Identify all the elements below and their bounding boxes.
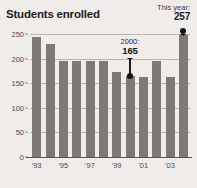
bar — [166, 77, 175, 157]
x-axis-tick-label: '97 — [85, 161, 95, 170]
students-enrolled-chart-card: Students enrolled This year: 257 0501001… — [0, 0, 197, 188]
y-axis-tick-label: 100 — [11, 103, 24, 112]
y-axis-tick-label: 200 — [11, 54, 24, 63]
bar-series — [30, 34, 190, 157]
x-axis-tick-label: '03 — [165, 161, 175, 170]
bar — [86, 61, 95, 157]
annotation-text: 2000:165 — [121, 38, 140, 56]
annotation-value-label: 165 — [121, 46, 140, 56]
x-axis-labels: '93'95'97'99'01'03 — [30, 160, 190, 174]
page-title: Students enrolled — [6, 8, 100, 20]
y-axis-tick — [25, 107, 28, 108]
bar — [72, 61, 81, 157]
bar — [99, 61, 108, 157]
bar — [139, 77, 148, 157]
y-axis-tick-label: 150 — [11, 79, 24, 88]
annotation-marker-dot — [127, 73, 133, 79]
bar — [59, 61, 68, 157]
this-year-callout-block: This year: 257 — [157, 4, 190, 22]
y-axis-tick — [25, 34, 28, 35]
x-axis-baseline — [26, 157, 192, 158]
y-axis-tick-label: 0 — [20, 153, 24, 162]
this-year-value: 257 — [157, 12, 190, 23]
y-axis-tick-label: 50 — [16, 128, 24, 137]
bar — [152, 61, 161, 157]
plot-area: 2000:165 — [30, 34, 190, 157]
chart-header: Students enrolled This year: 257 — [0, 0, 197, 30]
bar — [32, 37, 41, 157]
y-axis-tick — [25, 132, 28, 133]
x-axis-tick-label: '95 — [58, 161, 68, 170]
annotation-cap — [181, 34, 186, 35]
y-axis-tick-label: 250 — [11, 30, 24, 39]
y-axis-labels: 050100150200250 — [0, 34, 28, 157]
bar — [179, 35, 188, 157]
y-axis-tick — [25, 83, 28, 84]
x-axis-tick-label: '01 — [138, 161, 148, 170]
bar — [112, 72, 121, 157]
x-axis-tick-label: '99 — [112, 161, 122, 170]
x-axis-tick-label: '93 — [32, 161, 42, 170]
annotation-marker-dot — [180, 28, 186, 34]
bar — [126, 76, 135, 157]
y-axis-tick — [25, 58, 28, 59]
bar — [46, 44, 55, 157]
annotation-cap — [128, 58, 133, 59]
